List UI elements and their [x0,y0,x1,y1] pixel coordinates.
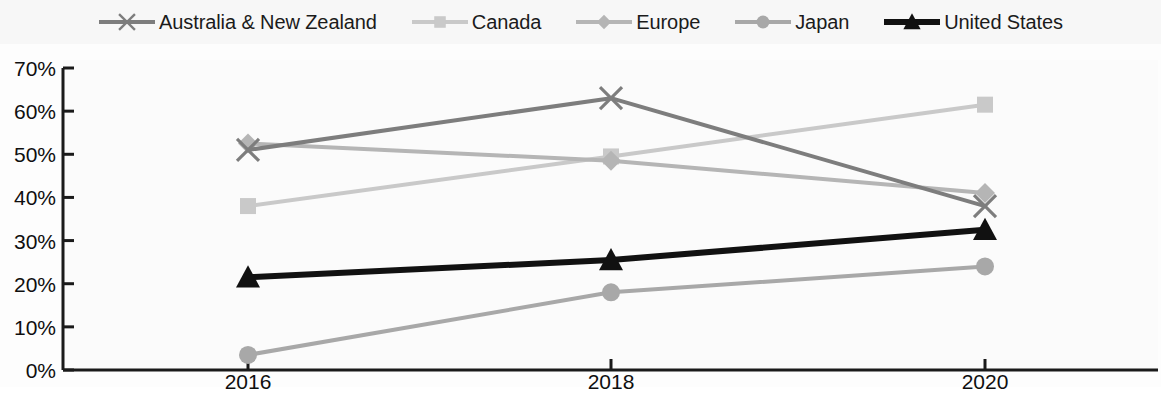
legend-item-canada[interactable]: Canada [411,12,541,32]
plot-svg [0,44,1161,387]
legend-marker-shape [434,16,446,28]
y-axis-tick-label: 70% [0,58,56,79]
square-marker-icon [411,12,469,32]
legend-marker-shape [757,16,770,29]
triangle-marker-icon [883,12,941,32]
plot-area: 70%60%50%40%30%20%10%0%201620182020 [0,44,1161,387]
data-point-marker-shape [977,97,993,113]
legend-item-europe[interactable]: Europe [575,12,700,32]
diamond-marker-icon [575,12,633,32]
legend-item-united-states[interactable]: United States [883,12,1063,32]
legend-item-australia-new-zealand[interactable]: Australia & New Zealand [98,12,377,32]
data-point-marker [239,346,257,364]
data-point-marker [240,198,256,214]
data-point-marker [976,257,994,275]
y-axis-tick-label: 40% [0,187,56,208]
data-point-marker-shape [240,198,256,214]
data-point-marker-shape [602,283,620,301]
y-axis-tick-label: 20% [0,274,56,295]
legend-item-label: Canada [472,12,541,32]
data-point-marker-shape [239,346,257,364]
y-axis-tick-label: 30% [0,231,56,252]
legend-item-label: Japan [795,12,849,32]
y-axis-tick-label: 0% [0,360,56,381]
y-axis-tick-label: 10% [0,317,56,338]
legend-marker [597,15,611,29]
legend-item-label: United States [944,12,1063,32]
legend-marker [434,16,446,28]
y-axis-tick-label: 60% [0,101,56,122]
circle-marker-icon [734,12,792,32]
y-axis-tick-label: 50% [0,144,56,165]
data-point-marker-shape [976,257,994,275]
legend-item-label: Australia & New Zealand [159,12,377,32]
legend-item-label: Europe [636,12,700,32]
x-axis-tick-label: 2018 [556,371,666,392]
data-point-marker [602,283,620,301]
x-cross-marker-icon [98,12,156,32]
chart-legend: Australia & New ZealandCanadaEuropeJapan… [0,0,1161,44]
x-axis-tick-label: 2020 [930,371,1040,392]
legend-marker [757,16,770,29]
legend-marker-shape [597,15,611,29]
x-axis-tick-label: 2016 [193,371,303,392]
data-point-marker [977,97,993,113]
legend-item-japan[interactable]: Japan [734,12,849,32]
